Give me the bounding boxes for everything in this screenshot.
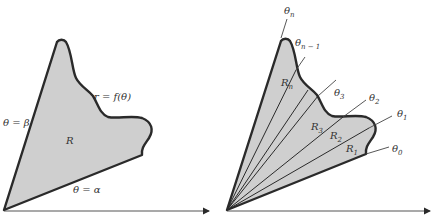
label-theta-2: θ2 [369,92,380,106]
curve-label: r = f(θ) [94,91,131,102]
label-theta-0: θ0 [392,143,403,157]
partitioned-region [227,39,376,210]
label-theta-n-minus-1: θn − 1 [295,37,320,51]
lower-ray-label: θ = α [73,184,101,195]
polar-area-diagram: r = f(θ) θ = β R θ = α θn θn − 1 [0,0,432,218]
upper-ray-label: θ = β [3,117,30,128]
label-theta-n: θn [284,5,295,19]
right-figure: θn θn − 1 θ3 θ2 θ1 θ0 Rn R3 R2 R1 [227,5,430,211]
region-label: R [65,135,74,146]
label-theta-3: θ3 [334,87,345,101]
label-theta-1: θ1 [397,108,408,122]
left-figure: r = f(θ) θ = β R θ = α [3,40,209,211]
